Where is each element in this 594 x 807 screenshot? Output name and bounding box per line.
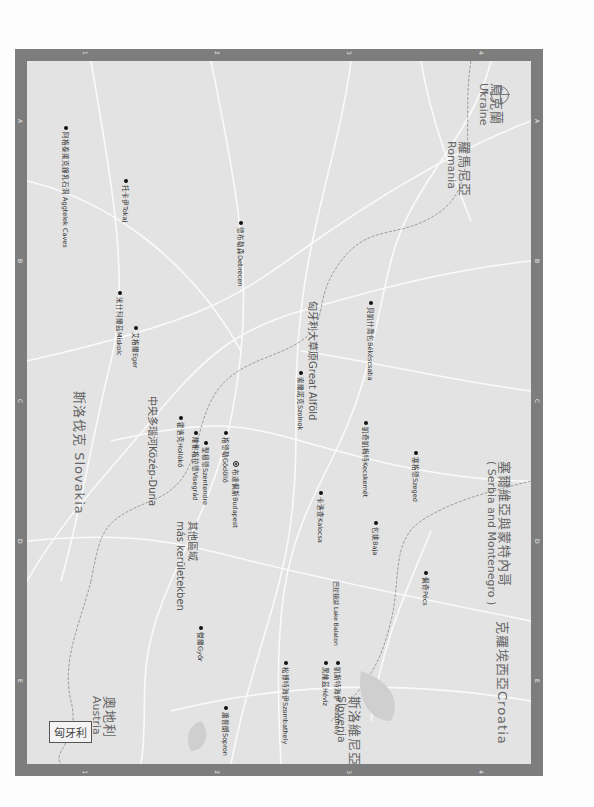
grid-row-label: D <box>534 539 541 544</box>
grid-row-label: C <box>17 399 24 403</box>
city-marker-icon <box>324 661 328 665</box>
city-marker-icon <box>424 571 428 575</box>
city-marker-icon <box>319 491 323 495</box>
capital-marker-icon <box>233 461 239 467</box>
compass-icon <box>491 86 509 104</box>
country-label-austria: 奧地利 Austria <box>90 696 116 738</box>
city-szeged[interactable]: 塞格德Szeged <box>411 451 421 502</box>
city-marker-icon <box>194 431 198 435</box>
city-sopron[interactable]: 蕭普朗Sopron <box>221 706 231 756</box>
grid-row-label: D <box>17 539 24 544</box>
region-kozep-duna: 中央多瑙河Közép-Duna <box>146 396 161 506</box>
city-eger[interactable]: 艾格爾Eger <box>131 326 141 368</box>
grid-col-label: 4 <box>478 51 485 55</box>
city-visegrad[interactable]: 維榭格拉德Visegrád <box>191 431 201 500</box>
city-keszthely[interactable]: 凱斯特海伊 Keszthely <box>333 661 343 735</box>
map-canvas: 匈牙利 烏克蘭 Ukraine 斯洛伐克 Slovakia 奧地利 Austri… <box>27 61 531 764</box>
map-frame: A B C D E A B C D E 4 3 2 1 4 3 2 1 <box>15 49 543 776</box>
grid-col-label: 3 <box>346 770 353 774</box>
grid-col-label: 1 <box>82 51 89 55</box>
grid-col-label: 2 <box>214 770 221 774</box>
grid-col-label: 2 <box>214 51 221 55</box>
city-marker-icon <box>284 661 288 665</box>
country-name-zh: 斯洛維尼亞 <box>347 696 362 764</box>
grid-row-label: C <box>534 399 541 403</box>
grid-row-label: E <box>17 679 24 683</box>
city-marker-icon <box>364 421 368 425</box>
grid-row-label: B <box>534 259 541 263</box>
region-great-alfold: 匈牙利大草原Great Alföld <box>306 301 321 420</box>
city-szentendre[interactable]: 聖檀德Szentendre <box>201 441 211 505</box>
city-gyor[interactable]: 傑爾Győr <box>196 626 206 662</box>
city-budapest[interactable]: 布達佩斯Budapest <box>231 461 241 528</box>
grid-col-label: 3 <box>346 51 353 55</box>
city-marker-icon <box>239 221 243 225</box>
city-marker-icon <box>64 126 68 130</box>
city-aggtelek[interactable]: 阿格泰萊克鐘乳石洞 Aggtelek Caves <box>61 126 71 248</box>
city-szombathely[interactable]: 松博特海伊Szombathely <box>281 661 291 744</box>
grid-row-label: B <box>17 259 24 263</box>
city-heviz[interactable]: 黑維茲Hévíz <box>321 661 331 706</box>
country-name-en: ( Serbia and Montenegro ) <box>485 461 498 605</box>
city-marker-icon <box>299 371 303 375</box>
city-holloko[interactable]: 霍洛克Hollókő <box>176 416 186 467</box>
lake-neusiedl <box>188 721 206 751</box>
region-other: 其他區域 más kerületekben <box>175 521 201 611</box>
country-name-zh: 塞爾維亞與蒙特內哥 <box>497 461 512 587</box>
country-label-croatia: 克羅埃西亞Croatia <box>496 621 509 745</box>
country-name-zh: 克羅埃西亞 <box>495 621 510 691</box>
country-name-zh: 羅馬尼亞 <box>457 141 472 197</box>
grid-row-label: A <box>17 119 24 123</box>
city-marker-icon <box>224 431 228 435</box>
lake-balaton-label: 巴拉頓湖 Lake Balaton <box>332 581 341 646</box>
city-marker-icon <box>199 626 203 630</box>
country-label-slovakia: 斯洛伐克 Slovakia <box>73 391 86 515</box>
city-miskolc[interactable]: 米什科爾茲Miskolc <box>115 291 125 356</box>
city-kecskemet[interactable]: 凱奇凱梅特Kecskemét <box>361 421 371 497</box>
city-bekescsaba[interactable]: 貝凱什喬包Békéscsaba <box>366 301 376 380</box>
city-szolnok[interactable]: 索爾諾克Szolnok <box>296 371 306 430</box>
city-marker-icon <box>369 301 373 305</box>
city-kalocsa[interactable]: 卡洛查Kalocsa <box>316 491 326 543</box>
region-name-zh: 其他區域 <box>187 521 198 561</box>
city-baja[interactable]: 包姚Baja <box>371 521 381 555</box>
region-name-en: más kerületekben <box>175 521 186 611</box>
lake-balaton <box>360 671 395 721</box>
city-marker-icon <box>336 661 340 665</box>
city-marker-icon <box>134 326 138 330</box>
city-marker-icon <box>124 179 128 183</box>
city-marker-icon <box>204 441 208 445</box>
compass-north-label: N <box>481 89 489 94</box>
map-title: 匈牙利 <box>49 721 92 743</box>
city-marker-icon <box>224 706 228 710</box>
city-marker-icon <box>179 416 183 420</box>
grid-row-label: A <box>534 119 541 123</box>
country-name-en: Romania <box>445 141 458 197</box>
country-name-en: Austria <box>90 696 103 738</box>
country-name-en: Slovakia <box>72 452 87 515</box>
city-marker-icon <box>414 451 418 455</box>
country-label-romania: 羅馬尼亞 Romania <box>445 141 471 197</box>
grid-col-label: 4 <box>478 770 485 774</box>
city-godollo[interactable]: 格德勒Gödöllő <box>221 431 231 483</box>
city-marker-icon <box>374 521 378 525</box>
city-tokaj[interactable]: 托卡伊Tokaj <box>121 179 131 222</box>
grid-row-label: E <box>534 679 541 683</box>
country-label-serbia: 塞爾維亞與蒙特內哥 ( Serbia and Montenegro ) <box>485 461 511 605</box>
city-debrecen[interactable]: 德布勒森Debrecen <box>236 221 246 286</box>
city-pecs[interactable]: 佩奇Pécs <box>421 571 431 606</box>
country-name-zh: 奧地利 <box>102 696 117 738</box>
city-marker-icon <box>118 291 122 295</box>
country-name-en: Croatia <box>495 691 510 745</box>
grid-col-label: 1 <box>82 770 89 774</box>
country-name-zh: 斯洛伐克 <box>72 391 87 447</box>
